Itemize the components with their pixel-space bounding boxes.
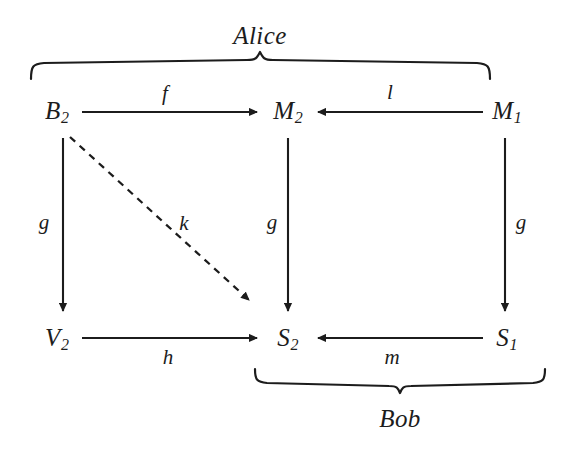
group-label-alice: Alice — [233, 22, 286, 50]
commutative-diagram: B2 M2 M1 V2 S2 S1 f l g g g k h m Alice … — [0, 0, 576, 449]
node-S2: S2 — [277, 324, 298, 354]
edge-label-m: m — [384, 345, 399, 370]
node-M1: M1 — [492, 97, 522, 127]
node-V2: V2 — [45, 324, 69, 354]
brace-bob — [255, 369, 545, 393]
edge-label-k: k — [179, 211, 188, 236]
node-B2: B2 — [45, 97, 69, 127]
edge-label-l: l — [387, 80, 393, 105]
node-S1: S1 — [496, 324, 517, 354]
edge-label-g-left: g — [39, 210, 50, 235]
edge-label-f: f — [162, 81, 168, 106]
brace-alice — [31, 52, 490, 79]
node-M2: M2 — [273, 97, 303, 127]
edge-k-dashed — [70, 137, 249, 300]
edge-label-g-right: g — [516, 210, 527, 235]
edge-label-g-middle: g — [267, 210, 278, 235]
edge-label-h: h — [163, 345, 174, 370]
diagram-canvas — [0, 0, 576, 449]
group-label-bob: Bob — [379, 405, 420, 433]
